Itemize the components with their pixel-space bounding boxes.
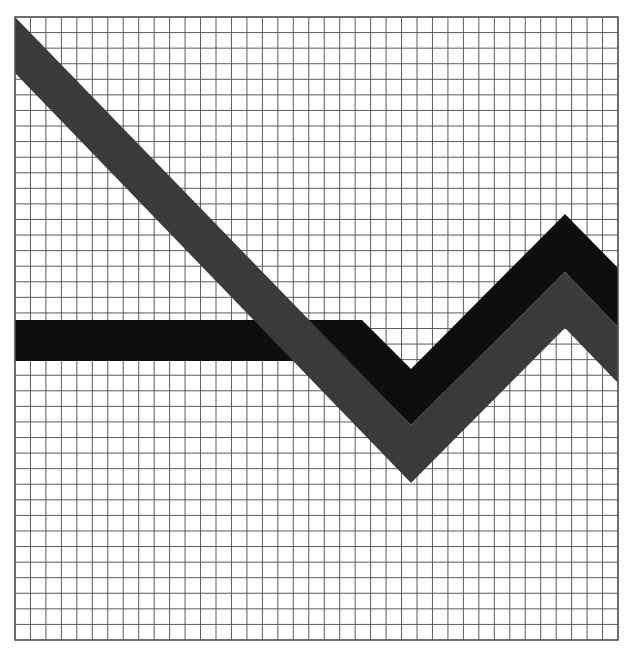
gray-trend-band [15,17,618,483]
chart-canvas [0,0,633,655]
